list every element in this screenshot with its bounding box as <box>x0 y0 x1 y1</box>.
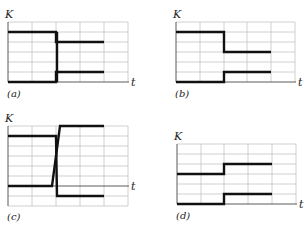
panel-b-t-label: t <box>298 76 303 89</box>
panel-d-upper-trace <box>177 164 272 174</box>
panel-a-k-label: K <box>4 8 14 21</box>
panel-c-caption: (c) <box>7 211 21 222</box>
figure-canvas: K t (a) K t (b) <box>0 0 305 229</box>
panel-c-grid <box>8 126 128 206</box>
panel-a-t-label: t <box>131 76 136 89</box>
panel-c-t-label: t <box>131 180 136 193</box>
panel-a-caption: (a) <box>7 88 21 99</box>
panel-d-t-label: t <box>299 198 304 211</box>
panel-c-k-label: K <box>4 112 14 125</box>
panel-d-k-label: K <box>173 130 183 143</box>
panel-b-k-label: K <box>172 8 182 21</box>
panel-b: K t (b) <box>172 8 303 99</box>
panel-d-caption: (d) <box>176 210 190 221</box>
panel-a: K t (a) <box>4 8 136 99</box>
panel-b-caption: (b) <box>175 88 189 99</box>
panel-c: K t (c) <box>4 112 136 222</box>
panel-d-lower-trace <box>177 194 272 204</box>
panel-d: K t (d) <box>173 130 304 221</box>
panel-b-lower-trace <box>176 72 271 82</box>
